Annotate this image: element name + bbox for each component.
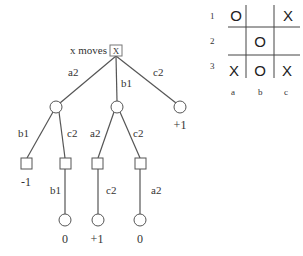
circle-node-a2 [50, 101, 62, 113]
edge-label-l-c2: c2 [67, 127, 77, 139]
value-leaf-left: -1 [21, 175, 31, 189]
square-node-2 [60, 158, 71, 169]
edge-label-d1: b1 [50, 184, 61, 196]
row-label-2: 2 [210, 36, 215, 46]
leaf-node-2 [92, 214, 104, 226]
cell-b2: O [254, 33, 266, 50]
root-marker: X [113, 46, 120, 56]
edge-label-b1: b1 [121, 77, 132, 89]
root-node: X [110, 45, 122, 56]
cell-b3: O [254, 62, 266, 79]
edge-label-d3: a2 [151, 184, 161, 196]
tic-tac-toe-board: 1 2 3 a b c O X O X O X [210, 5, 300, 97]
col-label-c: c [284, 87, 288, 97]
game-tree-diagram: X x moves a2 b1 c2 +1 b1 c2 a2 c2 -1 b1 … [0, 0, 303, 256]
edge-label-l-b1: b1 [18, 127, 29, 139]
square-node-4 [135, 158, 146, 169]
edge-label-m-a2: a2 [90, 127, 100, 139]
row-label-3: 3 [210, 61, 215, 71]
square-node-3 [92, 158, 103, 169]
cell-c3: X [282, 62, 292, 79]
leaf-node-1 [59, 214, 71, 226]
row-label-1: 1 [210, 11, 215, 21]
value-leaf-1: 0 [62, 232, 68, 246]
value-c2: +1 [174, 118, 187, 132]
edge-label-a2: a2 [68, 66, 78, 78]
square-node-1 [21, 158, 32, 169]
leaf-node-3 [134, 214, 146, 226]
edge-label-c2: c2 [153, 66, 163, 78]
edge-label-m-c2: c2 [133, 127, 143, 139]
cell-a1: O [230, 7, 242, 24]
value-leaf-2: +1 [91, 232, 104, 246]
cell-c1: X [283, 7, 293, 24]
col-label-a: a [231, 87, 235, 97]
cell-a3: X [229, 62, 239, 79]
circle-node-c2 [174, 101, 186, 113]
value-leaf-3: 0 [137, 232, 143, 246]
circle-node-b1 [111, 101, 123, 113]
edge-label-d2: c2 [106, 184, 116, 196]
root-label: x moves [70, 44, 107, 56]
col-label-b: b [258, 87, 263, 97]
